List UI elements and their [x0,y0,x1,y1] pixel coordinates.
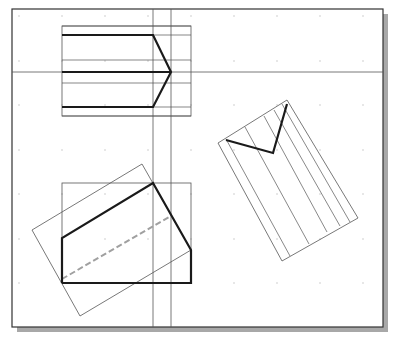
grid-dot [362,238,363,239]
grid-dot [276,149,277,150]
grid-dot [362,149,363,150]
grid-dot [233,193,234,194]
grid-dot [18,282,19,283]
grid-dot [104,104,105,105]
grid-dot [18,60,19,61]
grid-dot [147,104,148,105]
grid-dot [362,282,363,283]
grid-dot [319,149,320,150]
grid-dot [276,104,277,105]
grid-dot [233,15,234,16]
grid-dot [18,15,19,16]
grid-dot [190,15,191,16]
grid-dot [319,60,320,61]
grid-dot [147,15,148,16]
frame-border [12,9,383,327]
grid-dot [233,238,234,239]
grid-dot [233,282,234,283]
grid-dot [233,60,234,61]
grid-dot [104,149,105,150]
grid-dot [276,15,277,16]
grid-dot [362,60,363,61]
grid-dot [147,238,148,239]
grid-dot [319,15,320,16]
grid-dot [18,149,19,150]
grid-dot [319,193,320,194]
grid-dot [319,104,320,105]
grid-dot [18,193,19,194]
grid-dot [319,282,320,283]
cad-drawing-canvas [0,0,395,341]
grid-dot [362,15,363,16]
grid-dot [147,149,148,150]
grid-dot [104,60,105,61]
grid-dot [147,193,148,194]
grid-dot [190,149,191,150]
grid-dot [104,193,105,194]
grid-dot [147,60,148,61]
grid-dot [18,238,19,239]
grid-dot [61,15,62,16]
grid-dot [362,104,363,105]
grid-dot [276,60,277,61]
drawing-frame [12,9,383,327]
grid-dot [276,282,277,283]
grid-dot [233,149,234,150]
grid-dot [61,149,62,150]
grid-dot [18,104,19,105]
grid-dot [276,193,277,194]
grid-dot [104,238,105,239]
grid-dot [362,193,363,194]
drawing-svg [0,0,395,341]
grid-dot [104,15,105,16]
grid-dot [233,104,234,105]
grid-dot [276,238,277,239]
